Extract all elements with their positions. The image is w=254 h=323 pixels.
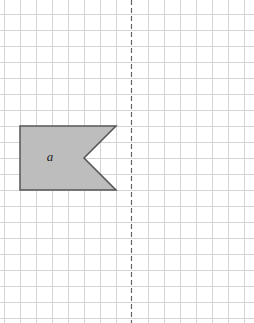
shape-label: a — [47, 149, 54, 164]
grid-diagram: a — [0, 0, 254, 323]
